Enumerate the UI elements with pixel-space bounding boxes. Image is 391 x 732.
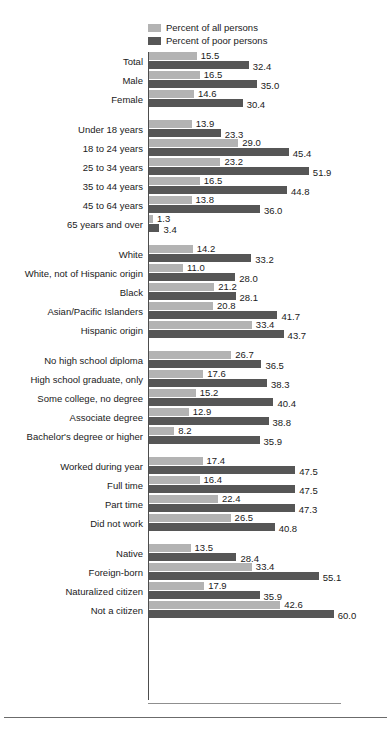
bar-poor — [149, 610, 334, 618]
bar-all — [149, 283, 214, 291]
bar-all — [149, 139, 238, 147]
category-row: Hispanic origin33.443.7 — [0, 321, 391, 340]
bar-value-label: 36.0 — [264, 206, 283, 215]
bar-value-label: 47.3 — [299, 505, 318, 514]
bar-value-label: 26.7 — [235, 350, 254, 359]
bar-value-label: 42.6 — [284, 600, 303, 609]
bar-value-label: 20.8 — [217, 301, 236, 310]
category-row: Asian/Pacific Islanders20.841.7 — [0, 302, 391, 321]
category-label: 45 to 64 years — [0, 200, 143, 211]
bar-all — [149, 52, 197, 60]
bar-poor — [149, 379, 267, 387]
bar-value-label: 43.7 — [288, 331, 307, 340]
category-label: 65 years and over — [0, 219, 143, 230]
bar-value-label: 22.4 — [222, 494, 241, 503]
bar-value-label: 23.3 — [225, 130, 244, 139]
category-row: Total15.532.4 — [0, 52, 391, 71]
bar-value-label: 14.6 — [198, 89, 217, 98]
bar-all — [149, 177, 200, 185]
bar-group-age: Under 18 years13.923.318 to 24 years29.0… — [0, 120, 391, 234]
category-label: Associate degree — [0, 412, 143, 423]
bar-value-label: 13.9 — [196, 119, 215, 128]
bar-value-label: 16.5 — [204, 70, 223, 79]
category-label: Male — [0, 75, 143, 86]
legend-label-all-persons: Percent of all persons — [166, 23, 258, 33]
bar-poor — [149, 99, 243, 107]
category-row: Black21.228.1 — [0, 283, 391, 302]
category-label: White — [0, 249, 143, 260]
bar-poor — [149, 553, 236, 561]
category-label: 18 to 24 years — [0, 143, 143, 154]
bar-group-nativity: Native13.528.4Foreign-born33.455.1Natura… — [0, 544, 391, 620]
bar-value-label: 16.5 — [204, 176, 223, 185]
category-row: Did not work26.540.8 — [0, 514, 391, 533]
category-label: High school graduate, only — [0, 374, 143, 385]
bar-poor — [149, 360, 261, 368]
bar-poor — [149, 311, 277, 319]
category-row: Worked during year17.447.5 — [0, 457, 391, 476]
plot-bottom-edge — [148, 703, 341, 704]
bar-poor — [149, 129, 221, 137]
bar-all — [149, 544, 191, 552]
bar-all — [149, 321, 252, 329]
bar-poor — [149, 80, 257, 88]
bar-group-sex: Total15.532.4Male16.535.0Female14.630.4 — [0, 52, 391, 109]
bar-value-label: 60.0 — [338, 611, 357, 620]
bar-all — [149, 457, 203, 465]
bar-poor — [149, 205, 260, 213]
bar-value-label: 40.4 — [277, 399, 296, 408]
bar-value-label: 16.4 — [204, 475, 223, 484]
category-label: Did not work — [0, 518, 143, 529]
bar-poor — [149, 485, 295, 493]
category-label: Foreign-born — [0, 567, 143, 578]
category-row: Naturalized citizen17.935.9 — [0, 582, 391, 601]
bar-value-label: 17.4 — [207, 456, 226, 465]
legend-swatch-poor-persons — [148, 37, 161, 45]
bar-value-label: 35.9 — [264, 437, 283, 446]
bar-poor — [149, 186, 287, 194]
category-label: Total — [0, 56, 143, 67]
bar-value-label: 13.5 — [195, 543, 214, 552]
category-label: White, not of Hispanic origin — [0, 268, 143, 279]
bar-value-label: 17.6 — [207, 369, 226, 378]
bar-all — [149, 476, 200, 484]
category-label: Bachelor's degree or higher — [0, 431, 143, 442]
category-label: Black — [0, 287, 143, 298]
category-row: Bachelor's degree or higher8.235.9 — [0, 427, 391, 446]
category-label: Some college, no degree — [0, 393, 143, 404]
legend-label-poor-persons: Percent of poor persons — [166, 36, 267, 46]
category-row: 25 to 34 years23.251.9 — [0, 158, 391, 177]
category-label: Worked during year — [0, 461, 143, 472]
category-row: No high school diploma26.736.5 — [0, 351, 391, 370]
category-label: Native — [0, 548, 143, 559]
bar-value-label: 51.9 — [313, 168, 332, 177]
category-label: 25 to 34 years — [0, 162, 143, 173]
category-label: Hispanic origin — [0, 325, 143, 336]
bar-value-label: 44.8 — [291, 187, 310, 196]
bar-poor — [149, 572, 319, 580]
bar-poor — [149, 398, 273, 406]
bar-value-label: 14.2 — [197, 244, 216, 253]
bar-value-label: 28.0 — [239, 274, 258, 283]
category-label: Not a citizen — [0, 605, 143, 616]
bar-value-label: 55.1 — [323, 573, 342, 582]
bar-value-label: 45.4 — [293, 149, 312, 158]
bar-all — [149, 90, 194, 98]
bar-value-label: 15.2 — [200, 388, 219, 397]
bar-all — [149, 245, 193, 253]
bar-value-label: 47.5 — [299, 486, 318, 495]
bar-value-label: 41.7 — [281, 312, 300, 321]
category-label: Naturalized citizen — [0, 586, 143, 597]
bar-group-work-experience: Worked during year17.447.5Full time16.44… — [0, 457, 391, 533]
bar-all — [149, 302, 213, 310]
figure-bottom-rule — [4, 717, 387, 718]
bar-poor — [149, 148, 289, 156]
legend-item-all-persons: Percent of all persons — [148, 22, 267, 33]
category-row: White, not of Hispanic origin11.028.0 — [0, 264, 391, 283]
bar-poor — [149, 523, 275, 531]
bar-all — [149, 370, 203, 378]
bar-group-race-ethnicity: White14.233.2White, not of Hispanic orig… — [0, 245, 391, 340]
bar-all — [149, 215, 153, 223]
bar-value-label: 38.3 — [271, 380, 290, 389]
legend-item-poor-persons: Percent of poor persons — [148, 35, 267, 46]
